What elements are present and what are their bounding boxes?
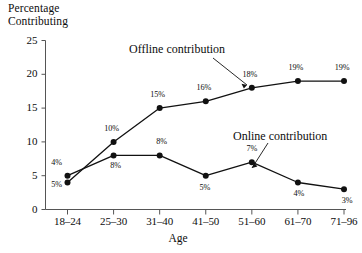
data-point-label: 19% <box>283 63 309 72</box>
data-point-label: 19% <box>329 63 355 72</box>
data-point-label: 8% <box>149 137 175 146</box>
data-point-label: 4% <box>286 189 312 198</box>
data-point-label: 10% <box>99 124 125 133</box>
annotation-online-contribution: Online contribution <box>233 129 327 144</box>
y-tick-label: 25 <box>16 34 38 46</box>
y-tick-label: 0 <box>16 203 38 215</box>
data-point-label: 5% <box>192 183 218 192</box>
data-point-label: 4% <box>44 158 70 167</box>
y-tick-label: 15 <box>16 101 38 113</box>
data-point-label: 15% <box>145 90 171 99</box>
y-tick-label: 10 <box>16 135 38 147</box>
x-tick-label: 71–96 <box>317 215 362 227</box>
data-point-label: 5% <box>44 180 70 189</box>
y-tick-label: 5 <box>16 169 38 181</box>
y-tick-label: 20 <box>16 67 38 79</box>
annotation-offline-contribution: Offline contribution <box>129 42 225 57</box>
data-point-label: 8% <box>103 161 129 170</box>
data-point-label: 16% <box>191 83 217 92</box>
data-point-label: 18% <box>237 70 263 79</box>
data-point-label: 3% <box>334 196 360 205</box>
data-point-label: 7% <box>239 144 265 153</box>
